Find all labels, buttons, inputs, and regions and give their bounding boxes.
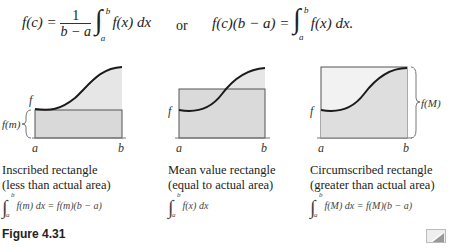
expand-icon[interactable]: [426, 229, 446, 243]
svg-text:a: a: [318, 141, 324, 155]
svg-text:f: f: [168, 104, 173, 118]
svg-text:b: b: [403, 141, 409, 155]
alt-lhs: f(c)(b − a) =: [212, 15, 289, 31]
caption-inscribed: Inscribed rectangle (less than actual ar…: [2, 163, 111, 193]
formula-mean-value: ∫ba f(x) dx: [168, 194, 208, 216]
circumscribed-rectangle-graph: f f(M) a b: [300, 60, 450, 155]
svg-text:f(M): f(M): [421, 97, 441, 110]
integrand: f(x) dx: [112, 14, 151, 30]
svg-text:f: f: [310, 104, 315, 118]
mean-value-rectangle-graph: f a b: [150, 60, 300, 155]
svg-text:b: b: [118, 141, 124, 155]
integral-sign: ∫ b a: [293, 8, 307, 38]
f-label: f: [29, 93, 34, 107]
figure-label: Figure 4.31: [2, 227, 65, 241]
mean-value-equation: f(c) = 1 b − a ∫ b a f(x) dx: [22, 8, 151, 40]
integral-sign: ∫ b a: [95, 9, 109, 39]
caption-circumscribed: Circumscribed rectangle (greater than ac…: [310, 163, 435, 193]
fraction: 1 b − a: [60, 8, 90, 40]
formula-circumscribed: ∫ba f(M) dx = f(M)(b − a): [310, 194, 412, 216]
integrand: f(x) dx.: [311, 15, 353, 31]
lhs: f(c) =: [22, 14, 57, 30]
svg-text:a: a: [176, 141, 182, 155]
formula-inscribed: ∫ba f(m) dx = f(m)(b − a): [2, 194, 102, 216]
alt-equation: f(c)(b − a) = ∫ b a f(x) dx.: [212, 8, 353, 38]
svg-text:b: b: [261, 141, 267, 155]
inscribed-rectangle-graph: f f(m) a b: [0, 60, 150, 155]
side-label: f(m): [2, 118, 21, 131]
caption-mean-value: Mean value rectangle (equal to actual ar…: [168, 163, 276, 193]
svg-text:a: a: [32, 141, 38, 155]
or-text: or: [176, 18, 188, 34]
